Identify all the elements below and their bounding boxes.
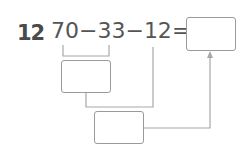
problem-number: 12 [17,21,44,45]
term-1: 70 [51,18,79,43]
answer-box-intermediate-1[interactable] [61,60,111,93]
answer-box-intermediate-2[interactable] [94,111,144,144]
expression: 70−33−12= [51,18,190,43]
answer-box-final[interactable] [186,17,236,51]
term-3: 12 [144,18,172,43]
minus-op-2: − [125,18,143,43]
minus-op-1: − [79,18,97,43]
term-2: 33 [97,18,125,43]
